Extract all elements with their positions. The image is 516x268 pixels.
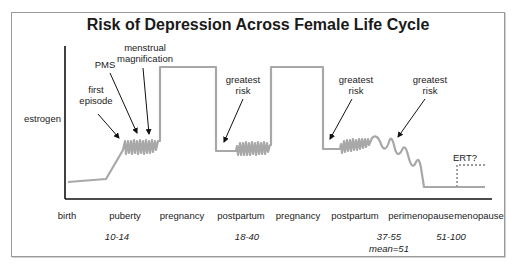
greatest-risk-1-line1: greatest [226,74,261,85]
greatest-risk-arrow-1 [224,99,243,142]
stage-pregnancy-1: pregnancy [160,210,205,221]
greatest-risk-3-line1: greatest [413,74,448,85]
greatest-risk-2-line2: risk [349,85,364,96]
first-episode-arrow [98,114,119,138]
stage-postpartum-2: postpartum [331,210,379,221]
ert-label: ERT? [453,152,477,163]
first-episode-label-line2: episode [79,95,112,106]
stage-postpartum-1: postpartum [217,210,265,221]
stage-birth: birth [58,210,76,221]
first-episode-label-line1: first [88,84,104,95]
menstrual-magnification-label-line1: menstrual [124,42,166,53]
menstrual-magnification-label-line2: magnification [117,53,173,64]
greatest-risk-2-line1: greatest [339,74,374,85]
y-axis-label: estrogen [24,113,61,124]
ert-dashed-line [457,165,485,187]
age-menopause: 51-100 [436,231,466,242]
estrogen-diagram: estrogen first episode PMS menstrual mag… [0,0,516,268]
menstrual-magnification-arrow [143,68,149,134]
pms-label: PMS [95,59,116,70]
stage-puberty: puberty [109,210,141,221]
stage-menopause: menopause [454,210,504,221]
age-reproductive: 18-40 [235,231,260,242]
stage-perimenopause: perimenopause [388,210,454,221]
greatest-risk-1-line2: risk [236,85,251,96]
age-puberty: 10-14 [105,231,129,242]
age-perimenopause: 37-55 [377,231,402,242]
greatest-risk-arrow-3 [398,99,425,137]
age-perimenopause-mean: mean=51 [369,243,409,254]
greatest-risk-arrow-2 [330,99,352,139]
pms-arrow [110,73,137,133]
greatest-risk-3-line2: risk [423,85,438,96]
stage-pregnancy-2: pregnancy [276,210,321,221]
